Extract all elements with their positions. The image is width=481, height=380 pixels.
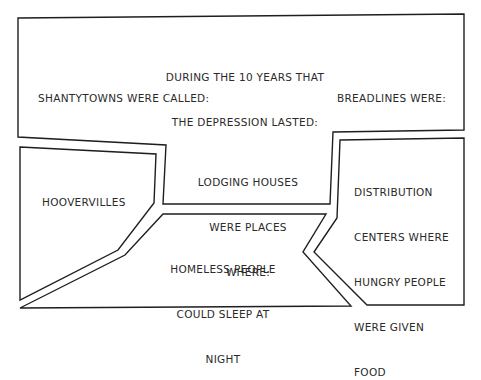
- distribution-line-4: WERE GIVEN: [354, 320, 449, 335]
- distribution-answer: DISTRIBUTION CENTERS WHERE HUNGRY PEOPLE…: [354, 155, 449, 380]
- homeless-line-3: NIGHT: [158, 352, 288, 367]
- distribution-line-5: FOOD: [354, 365, 449, 380]
- distribution-line-3: HUNGRY PEOPLE: [354, 275, 449, 290]
- breadlines-prompt: BREADLINES WERE:: [337, 91, 446, 106]
- hoovervilles-answer: HOOVERVILLES: [42, 195, 126, 210]
- homeless-line-2: COULD SLEEP AT: [158, 307, 288, 322]
- header-line-2: THE DEPRESSION LASTED:: [150, 115, 340, 130]
- hoovervilles-region: [20, 147, 156, 300]
- distribution-line-2: CENTERS WHERE: [354, 230, 449, 245]
- header-line-1: DURING THE 10 YEARS THAT: [150, 70, 340, 85]
- lodging-line-1: LODGING HOUSES: [178, 175, 318, 190]
- distribution-line-1: DISTRIBUTION: [354, 185, 449, 200]
- homeless-line-1: HOMELESS PEOPLE: [158, 262, 288, 277]
- shantytowns-prompt: SHANTYTOWNS WERE CALLED:: [38, 91, 209, 106]
- homeless-answer: HOMELESS PEOPLE COULD SLEEP AT NIGHT: [158, 232, 288, 380]
